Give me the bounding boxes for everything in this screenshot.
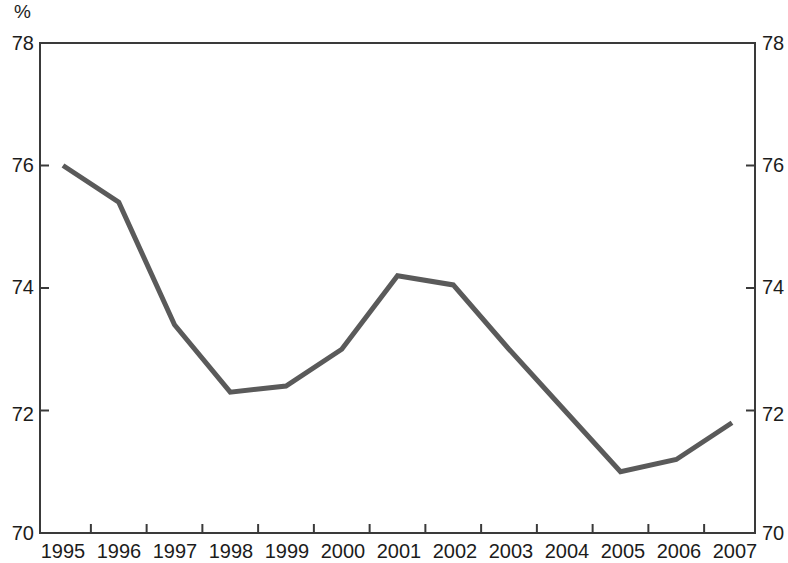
- plot-area: [0, 0, 788, 563]
- y-axis-left-ticks: [40, 166, 49, 411]
- y-axis-right-ticks: [746, 166, 755, 411]
- data-series-line: [63, 166, 732, 472]
- x-axis-ticks: [91, 524, 704, 533]
- plot-frame-border: [40, 43, 755, 533]
- chart-container: % 78 76 74 72 70 78 76 74 72 70 1995 199…: [0, 0, 788, 563]
